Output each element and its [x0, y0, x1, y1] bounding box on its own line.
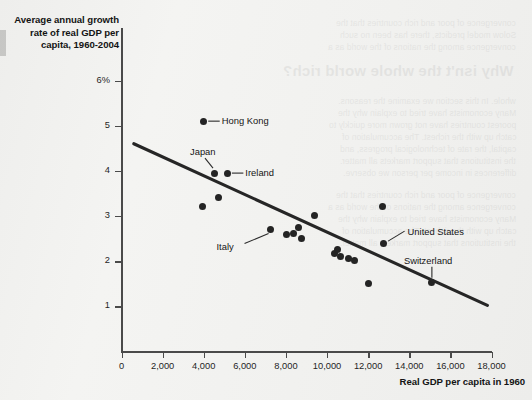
- x-axis-title: Real GDP per capita in 1960: [310, 376, 525, 387]
- x-tick-label: 12,000: [345, 361, 391, 371]
- x-tick-mark: [286, 352, 287, 358]
- y-axis-line: [121, 28, 123, 352]
- data-point: [295, 224, 302, 231]
- y-tick-label: 6%: [76, 75, 110, 85]
- data-point-japan: [211, 170, 218, 177]
- annotation-label-japan: Japan: [190, 146, 216, 157]
- y-tick-label: 4: [76, 165, 110, 175]
- annotation-label-switzerland: Switzerland: [404, 255, 452, 266]
- data-point: [199, 203, 206, 210]
- data-point: [351, 257, 358, 264]
- x-tick-label: 6,000: [222, 361, 268, 371]
- data-point-italy: [267, 226, 274, 233]
- x-tick-mark: [368, 352, 369, 358]
- x-tick-label: 8,000: [263, 361, 309, 371]
- y-tick-mark: [115, 171, 121, 172]
- x-tick-mark: [492, 352, 493, 358]
- y-tick-mark: [115, 306, 121, 307]
- annotation-leader-lines: [0, 0, 532, 400]
- data-point: [379, 203, 386, 210]
- y-tick-mark: [115, 261, 121, 262]
- x-tick-label: 18,000: [469, 361, 515, 371]
- annotation-label-hong-kong: Hong Kong: [222, 115, 269, 126]
- data-point-united-states: [380, 240, 387, 247]
- scatter-chart: Average annual growth rate of real GDP p…: [0, 0, 532, 400]
- data-point: [290, 230, 297, 237]
- annotation-label-ireland: Ireland: [245, 167, 274, 178]
- y-tick-mark: [115, 126, 121, 127]
- x-tick-label: 16,000: [427, 361, 473, 371]
- annotation-label-italy: Italy: [217, 241, 234, 252]
- data-point: [337, 253, 344, 260]
- annotation-label-united-states: United States: [408, 226, 464, 237]
- y-tick-label: 5: [76, 120, 110, 130]
- trend-line-layer: [0, 0, 532, 400]
- x-tick-mark: [122, 352, 123, 358]
- data-point: [298, 235, 305, 242]
- y-tick-label: 1: [76, 300, 110, 310]
- data-point: [215, 194, 222, 201]
- x-tick-label: 2,000: [140, 361, 186, 371]
- data-point-switzerland: [428, 279, 435, 286]
- y-tick-label: 3: [76, 210, 110, 220]
- x-tick-mark: [245, 352, 246, 358]
- y-axis-title: Average annual growth rate of real GDP p…: [2, 14, 119, 52]
- data-point-ireland: [224, 170, 231, 177]
- x-axis-line: [121, 351, 492, 353]
- y-tick-mark: [115, 81, 121, 82]
- data-point: [365, 280, 372, 287]
- x-tick-label: 14,000: [386, 361, 432, 371]
- x-tick-mark: [409, 352, 410, 358]
- x-tick-label: 0: [99, 361, 145, 371]
- x-tick-mark: [450, 352, 451, 358]
- y-tick-mark: [115, 216, 121, 217]
- x-tick-mark: [204, 352, 205, 358]
- x-tick-mark: [163, 352, 164, 358]
- x-tick-label: 4,000: [181, 361, 227, 371]
- y-tick-label: 2: [76, 255, 110, 265]
- x-tick-label: 10,000: [304, 361, 350, 371]
- data-point: [311, 212, 318, 219]
- x-tick-mark: [327, 352, 328, 358]
- data-point-hong-kong: [200, 118, 207, 125]
